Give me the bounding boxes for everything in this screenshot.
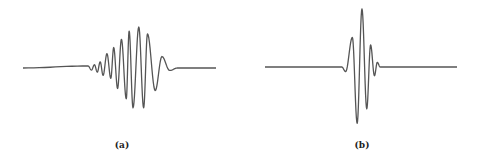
figure: (a) (b) [0, 0, 478, 164]
panel-b: (b) [265, 9, 457, 150]
panel-a: (a) [23, 27, 216, 150]
waveform-b [265, 9, 457, 123]
waveform-a [23, 27, 216, 108]
caption-b: (b) [355, 140, 370, 150]
caption-a: (a) [115, 140, 129, 150]
